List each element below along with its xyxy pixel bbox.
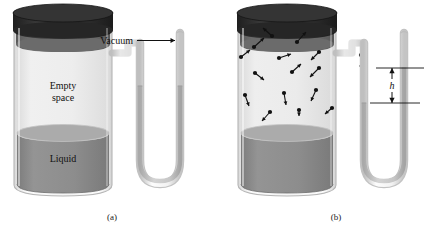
molecule-dot-6 [253, 71, 257, 75]
molecule-dot-9 [243, 93, 247, 97]
vessel-b [237, 4, 337, 196]
molecule-dot-2 [295, 40, 299, 44]
cap-lower-lip-a [13, 22, 113, 39]
molecule-dot-7 [290, 70, 294, 74]
molecule-dot-10 [282, 91, 286, 95]
caption-b: (b) [224, 212, 448, 222]
height-arrowhead-up-icon [389, 68, 394, 73]
vacuum-label: Vacuum [100, 35, 133, 46]
u-tube-outline-a [140, 33, 180, 184]
diagram-b: h [224, 0, 448, 226]
molecule-dot-4 [277, 56, 281, 60]
mercury-column-a [140, 86, 180, 181]
height-arrowhead-down-icon [389, 98, 394, 103]
headspace-label-line1: Empty [50, 80, 77, 91]
cap-top-b [237, 4, 337, 22]
u-tube-a [140, 33, 180, 184]
liquid-surface-b [241, 125, 333, 142]
molecule-dot-13 [297, 108, 301, 112]
headspace-label-line2: space [52, 92, 75, 103]
liquid-body-b [241, 133, 333, 193]
u-tube-outline-b [364, 33, 404, 184]
panel-b: h (b) [224, 0, 448, 226]
molecule-dot-5 [317, 50, 321, 54]
molecule-dot-11 [314, 88, 318, 92]
cap-lower-lip-b [237, 22, 337, 39]
vacuum-arrowhead-icon [171, 38, 176, 43]
panel-a: Empty space Liquid Vacuum (a) [0, 0, 224, 226]
manometer-a [112, 32, 183, 185]
height-label: h [390, 80, 395, 91]
diagram-a: Empty space Liquid Vacuum [0, 0, 224, 226]
liquid-label-a: Liquid [50, 153, 77, 164]
liquid-surface-a [17, 125, 109, 142]
molecule-dot-8 [317, 66, 321, 70]
molecule-dot-12 [268, 110, 272, 114]
molecule-dot-0 [270, 34, 274, 38]
molecule-dot-3 [239, 55, 243, 59]
height-annotation: h [370, 68, 424, 103]
cap-top-a [13, 4, 113, 22]
caption-a: (a) [0, 212, 224, 222]
manometer-b [336, 32, 407, 185]
molecule-dot-1 [252, 45, 256, 49]
u-tube-b [364, 33, 404, 184]
molecule-dot-14 [330, 106, 334, 110]
